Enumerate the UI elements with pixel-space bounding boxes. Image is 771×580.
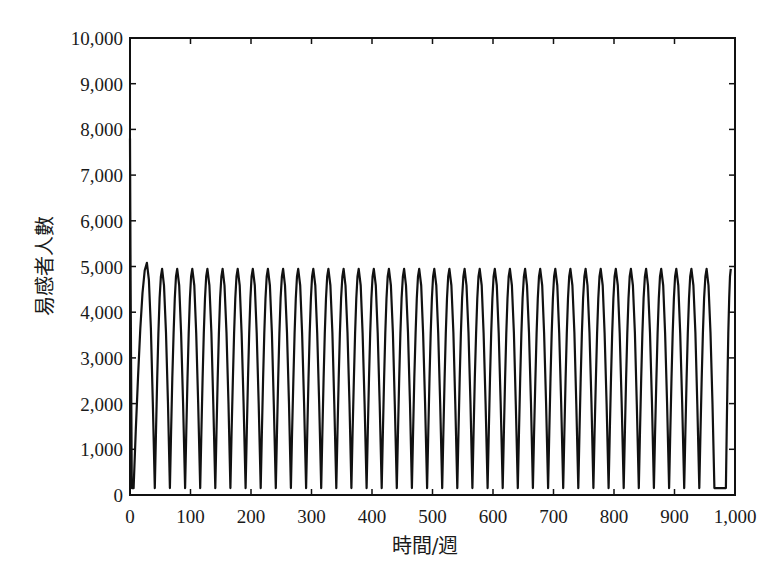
x-tick-label: 200: [237, 506, 266, 527]
y-tick-label: 3,000: [80, 348, 123, 369]
x-tick-label: 600: [479, 506, 508, 527]
y-axis-title: 易感者人數: [33, 216, 57, 316]
data-series-susceptible: [130, 139, 731, 489]
x-tick-label: 700: [539, 506, 568, 527]
x-tick-label: 100: [176, 506, 205, 527]
y-tick-label: 6,000: [80, 211, 123, 232]
x-tick-label: 800: [600, 506, 629, 527]
y-tick-label: 1,000: [80, 439, 123, 460]
x-tick-label: 0: [125, 506, 135, 527]
y-tick-label: 9,000: [80, 74, 123, 95]
x-axis-title: 時間/週: [392, 534, 459, 558]
y-tick-label: 5,000: [80, 257, 123, 278]
x-tick-label: 400: [358, 506, 387, 527]
x-tick-label: 900: [660, 506, 689, 527]
x-tick-label: 1,000: [714, 506, 757, 527]
y-tick-label: 2,000: [80, 394, 123, 415]
y-tick-label: 0: [114, 485, 124, 506]
y-tick-label: 8,000: [80, 119, 123, 140]
x-tick-label: 500: [418, 506, 447, 527]
series-line: [130, 139, 731, 489]
chart: 01002003004005006007008009001,000 01,000…: [0, 0, 771, 580]
y-tick-label: 10,000: [71, 28, 123, 49]
x-tick-label: 300: [297, 506, 326, 527]
y-tick-label: 4,000: [80, 302, 123, 323]
y-tick-label: 7,000: [80, 165, 123, 186]
axis-frame: [130, 38, 735, 495]
